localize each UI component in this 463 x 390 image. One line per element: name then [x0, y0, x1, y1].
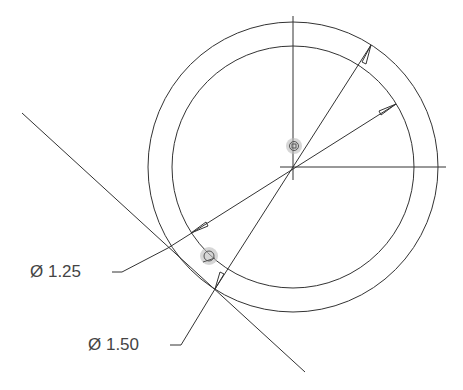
tangent-snap-icon: [200, 247, 218, 265]
leader-1.25: [112, 248, 168, 272]
dimension-label-1.25[interactable]: Ø 1.25: [30, 262, 81, 282]
arrowhead-icon: [362, 45, 371, 64]
dimension-label-1.50[interactable]: Ø 1.50: [88, 335, 139, 355]
arrowhead-icon: [215, 272, 224, 289]
cad-drawing: [0, 0, 463, 390]
dimension-line-1.25[interactable]: [168, 104, 396, 248]
arrowhead-icon: [191, 222, 208, 233]
center-snap-icon: [286, 138, 302, 154]
leader-1.50: [170, 289, 215, 345]
tangent-line[interactable]: [22, 113, 305, 372]
